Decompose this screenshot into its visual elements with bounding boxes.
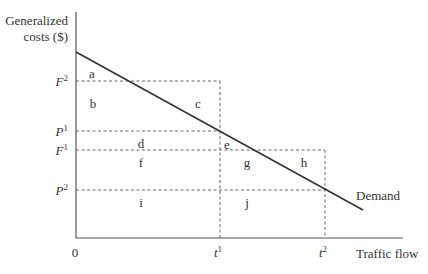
- tick-f1: F1: [55, 142, 68, 158]
- area-f: f: [139, 155, 144, 170]
- area-b: b: [90, 96, 97, 111]
- area-c: c: [195, 96, 201, 111]
- area-h: h: [301, 155, 308, 170]
- y-axis-label-line1: Generalized: [5, 13, 68, 28]
- tick-p1: P1: [55, 123, 68, 139]
- area-e: e: [224, 137, 230, 152]
- area-d: d: [138, 136, 145, 151]
- demand-label: Demand: [356, 188, 401, 203]
- tick-t1: t1: [214, 244, 222, 260]
- x-axis-label: Traffic flow: [356, 246, 419, 261]
- demand-diagram: Generalized costs ($) F2 P1 F1 P2 0 t1 t…: [0, 0, 428, 274]
- tick-f2: F2: [55, 73, 68, 89]
- area-j: j: [244, 195, 249, 210]
- area-i: i: [139, 195, 143, 210]
- area-g: g: [244, 155, 251, 170]
- area-a: a: [89, 66, 95, 81]
- demand-curve: [76, 52, 363, 210]
- tick-t2: t2: [319, 244, 327, 260]
- y-axis-label-line2: costs ($): [24, 29, 68, 44]
- tick-p2: P2: [55, 182, 68, 198]
- origin-label: 0: [72, 245, 79, 260]
